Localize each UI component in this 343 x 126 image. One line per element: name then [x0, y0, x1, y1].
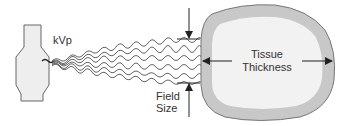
- field-size-label-2: Size: [156, 102, 177, 114]
- tissue-label-1: Tissue: [251, 48, 283, 60]
- x-ray-tube: [16, 25, 49, 101]
- field-size-label-1: Field: [156, 90, 180, 102]
- xray-factors-diagram: kVp Field Size Tissue Thickness: [0, 0, 343, 126]
- tissue-label-2: Thickness: [242, 61, 292, 73]
- kvp-label: kVp: [53, 34, 72, 46]
- field-size-indicator: [177, 8, 200, 117]
